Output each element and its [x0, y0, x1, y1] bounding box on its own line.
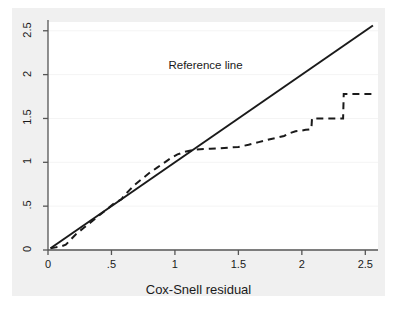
y-axis-tick-label: 2 — [21, 59, 33, 89]
x-axis-tick-label: 2 — [282, 258, 322, 270]
reference-line-annotation: Reference line — [168, 59, 242, 71]
y-axis-tick-label: 1 — [21, 146, 33, 176]
series-line-nelson-aalen — [51, 94, 373, 248]
x-axis-title: Cox-Snell residual — [0, 282, 397, 297]
x-axis-tick-label: 2.5 — [345, 258, 385, 270]
x-axis-tick-label: 1 — [155, 258, 195, 270]
y-axis-tick-label: 0 — [21, 234, 33, 264]
x-axis-tick-label: 1.5 — [218, 258, 258, 270]
x-axis-tick-label: .5 — [91, 258, 131, 270]
y-axis-tick-label: .5 — [21, 190, 33, 220]
cox-snell-residual-chart: 0.511.522.5 0.511.522.5 Cox-Snell residu… — [0, 0, 397, 310]
y-axis-tick-label: 1.5 — [21, 102, 33, 132]
x-axis-tick-label: 0 — [28, 258, 68, 270]
y-axis-tick-label: 2.5 — [21, 15, 33, 45]
